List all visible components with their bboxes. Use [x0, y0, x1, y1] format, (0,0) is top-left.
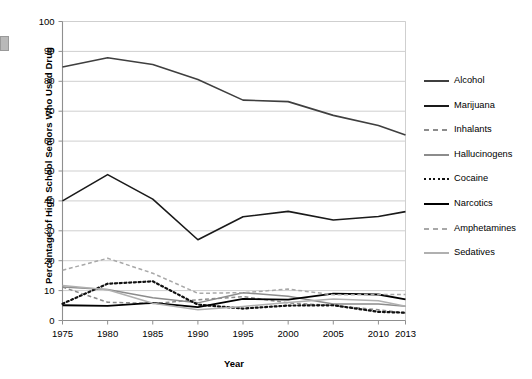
x-tick-label: 1990 [175, 329, 221, 339]
series-line-amphetamines [63, 258, 406, 294]
y-tick-label: 100 [21, 17, 55, 27]
legend-swatch-sedatives [424, 252, 449, 254]
legend-swatch-marijuana [424, 105, 449, 107]
legend-swatch-alcohol [424, 80, 449, 82]
x-tick-label: 1985 [130, 329, 176, 339]
legend-swatch-narcotics [424, 203, 449, 205]
legend-swatch-hallucinogens [424, 154, 449, 156]
legend-swatch-amphetamines [424, 228, 449, 230]
y-tick-label: 40 [21, 196, 55, 206]
legend-label: Alcohol [454, 74, 485, 86]
series-line-marijuana [63, 175, 406, 240]
series-line-alcohol [63, 58, 406, 135]
legend-label: Amphetamines [454, 222, 516, 234]
y-tick-label: 90 [21, 46, 55, 56]
legend-item-marijuana: Marijuana [424, 97, 530, 122]
y-tick-label: 60 [21, 136, 55, 146]
y-tick-label: 70 [21, 106, 55, 116]
legend-label: Hallucinogens [454, 148, 512, 160]
y-tick-label: 0 [21, 316, 55, 326]
y-tick-label: 20 [21, 256, 55, 266]
legend-label: Inhalants [454, 123, 492, 135]
x-tick-label: 1975 [40, 329, 86, 339]
y-tick-label: 80 [21, 76, 55, 86]
x-tick-label: 1980 [85, 329, 131, 339]
x-tick-label: 2000 [265, 329, 311, 339]
chart-legend: AlcoholMarijuanaInhalantsHallucinogensCo… [424, 72, 530, 269]
legend-item-amphetamines: Amphetamines [424, 220, 530, 245]
legend-swatch-cocaine [424, 178, 449, 180]
chart-figure: Percentage of High School Seniors Who Us… [0, 0, 532, 379]
y-tick-label: 10 [21, 286, 55, 296]
legend-item-hallucinogens: Hallucinogens [424, 146, 530, 171]
legend-item-cocaine: Cocaine [424, 170, 530, 195]
legend-label: Narcotics [454, 197, 493, 209]
x-tick-label: 2005 [310, 329, 356, 339]
legend-swatch-inhalants [424, 129, 449, 131]
x-tick-label: 2013 [383, 329, 429, 339]
legend-label: Cocaine [454, 172, 488, 184]
x-tick-label: 1995 [220, 329, 266, 339]
legend-item-narcotics: Narcotics [424, 195, 530, 220]
legend-item-alcohol: Alcohol [424, 72, 530, 97]
legend-label: Marijuana [454, 99, 495, 111]
legend-label: Sedatives [454, 246, 495, 258]
legend-item-sedatives: Sedatives [424, 244, 530, 269]
legend-item-inhalants: Inhalants [424, 121, 530, 146]
y-tick-label: 30 [21, 226, 55, 236]
y-tick-label: 50 [21, 166, 55, 176]
